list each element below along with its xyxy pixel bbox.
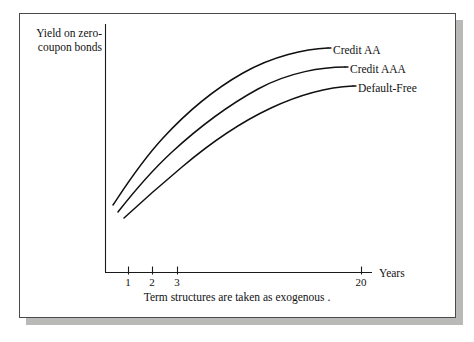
figure-caption: Term structures are taken as exogenous .	[0, 291, 474, 305]
x-tick-label-1: 1	[118, 276, 138, 289]
x-tick-label-20: 20	[351, 276, 371, 289]
x-axis-title: Years	[379, 267, 405, 281]
series-label-default-free: Default-Free	[358, 82, 417, 96]
y-axis-title: Yield on zero-coupon bonds	[16, 27, 102, 54]
series-label-credit-aaa: Credit AAA	[350, 63, 406, 77]
series-label-credit-aa: Credit AA	[333, 44, 381, 58]
figure-root: Yield on zero-coupon bonds Credit AA Cre…	[0, 0, 474, 342]
x-tick-label-2: 2	[142, 276, 162, 289]
x-tick-label-3: 3	[167, 276, 187, 289]
